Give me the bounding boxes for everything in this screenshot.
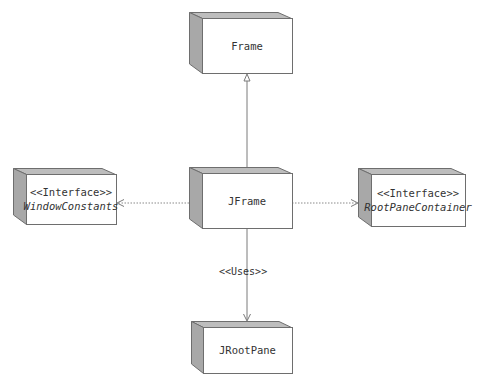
class-name: JFrame: [228, 194, 266, 208]
class-name: RootPaneContainer: [364, 200, 471, 214]
edge-jframe-rootpanecontainer: [292, 200, 358, 207]
edge-jframe-frame: [244, 74, 250, 173]
class-label: Frame: [202, 18, 292, 73]
class-label: JRootPane: [203, 327, 292, 373]
class-name: JRootPane: [219, 343, 276, 357]
edge-jframe-windowconstants: [117, 200, 189, 207]
class-label: <<Interface>>WindowConstants: [26, 174, 116, 224]
class-label: <<Interface>>RootPaneContainer: [371, 174, 465, 226]
stereotype-label: <<Interface>>: [377, 186, 459, 200]
class-node-jframe[interactable]: JFrame: [189, 167, 292, 228]
edge-label-uses: <<Uses>>: [219, 266, 267, 277]
hollow-triangle-arrowhead-icon: [244, 74, 250, 81]
class-name: Frame: [231, 39, 263, 53]
class-node-jrootpane[interactable]: JRootPane: [191, 321, 292, 373]
class-node-windowconstants[interactable]: <<Interface>>WindowConstants: [13, 168, 116, 224]
class-label: JFrame: [202, 173, 292, 228]
stereotype-label: <<Interface>>: [30, 185, 112, 199]
class-node-frame[interactable]: Frame: [189, 12, 292, 73]
class-node-rootpanecontainer[interactable]: <<Interface>>RootPaneContainer: [358, 168, 465, 226]
class-name: WindowConstants: [24, 199, 119, 213]
